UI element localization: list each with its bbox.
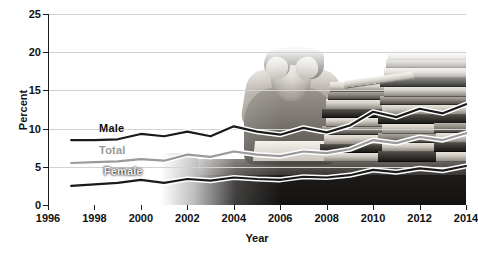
x-axis-tick-label: 2000: [129, 212, 153, 224]
x-axis-tick: [466, 205, 467, 210]
series-label-total: Total: [99, 144, 125, 156]
series-line-halo: [71, 104, 466, 140]
x-axis-tick-label: 1996: [36, 212, 60, 224]
series-label-male: Male: [99, 122, 124, 134]
x-axis-tick: [327, 205, 328, 210]
x-axis-tick-label: 2014: [454, 212, 478, 224]
x-axis-tick-label: 2012: [407, 212, 431, 224]
x-axis-tick: [234, 205, 235, 210]
x-axis-tick: [280, 205, 281, 210]
x-axis-tick-label: 2004: [222, 212, 246, 224]
x-axis-tick-label: 2006: [268, 212, 292, 224]
y-axis-tick-label: 15: [29, 84, 41, 96]
y-axis-title-label: Percent: [17, 89, 29, 129]
x-axis-tick: [420, 205, 421, 210]
x-axis-tick-label: 2002: [175, 212, 199, 224]
x-axis-tick: [94, 205, 95, 210]
x-axis-tick: [48, 205, 49, 210]
x-axis-tick-label: 1998: [82, 212, 106, 224]
y-axis-tick-label: 20: [29, 46, 41, 58]
x-axis-tick: [373, 205, 374, 210]
plot-area: 0510152025199619982000200220042006200820…: [48, 14, 466, 205]
y-axis-tick-label: 10: [29, 123, 41, 135]
x-axis-tick-label: 2008: [314, 212, 338, 224]
x-axis-tick: [141, 205, 142, 210]
y-axis-tick-label: 5: [35, 161, 41, 173]
y-axis-title: Percent: [3, 14, 43, 205]
y-axis-tick-label: 0: [35, 199, 41, 211]
chart-figure: Percent: [0, 0, 478, 257]
x-axis-tick: [187, 205, 188, 210]
x-axis-title: Year: [48, 232, 466, 244]
series-label-female: Female: [104, 165, 143, 177]
y-axis-tick-label: 25: [29, 8, 41, 20]
x-axis-tick-label: 2010: [361, 212, 385, 224]
